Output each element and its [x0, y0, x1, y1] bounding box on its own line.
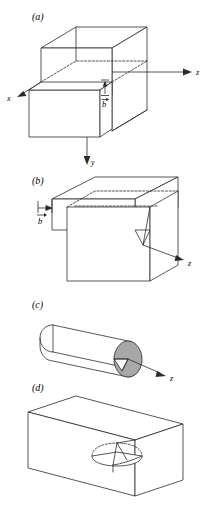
panel-c-z-axis-label: z [169, 374, 174, 383]
panel-b-burgers-overline-arrowhead [44, 213, 47, 217]
panel-c: (c) z [32, 299, 174, 383]
panel-a-y-axis-label: y [90, 158, 95, 167]
panel-a-slipped-slab-front-face [29, 90, 100, 137]
panel-b-lower-block-right-face [150, 191, 178, 281]
panel-b-label: (b) [32, 175, 44, 187]
panel-b-burgers-vector-label: b [38, 216, 42, 226]
panel-b: (b) b z [32, 175, 192, 281]
panel-a-label: (a) [32, 11, 44, 23]
figure-dislocation-diagrams: (a) b [0, 0, 213, 506]
panel-c-z-axis-arrowhead [156, 371, 167, 377]
panel-a-burgers-vector-label: b [102, 99, 106, 109]
panel-b-lower-block-front-face [67, 207, 150, 281]
panel-b-z-axis-label: z [187, 259, 192, 268]
panel-a-slipped-slab-right-face [100, 82, 112, 137]
panel-a-y-axis: y [84, 137, 95, 167]
panel-a-z-axis-arrowhead [183, 69, 192, 76]
panel-a: (a) b [6, 11, 200, 167]
panel-a-z-axis-label: z [195, 68, 200, 77]
panel-b-burgers-vector: b [37, 199, 53, 226]
panel-d: (d) [28, 382, 183, 496]
panel-c-label: (c) [32, 299, 44, 311]
panel-b-z-axis-arrowhead [175, 255, 185, 261]
panel-a-y-axis-arrowhead [84, 156, 91, 165]
panel-a-x-axis-label: x [6, 94, 11, 103]
panel-a-slipped-slab-top-face [29, 82, 112, 90]
panel-d-label: (d) [32, 382, 44, 394]
